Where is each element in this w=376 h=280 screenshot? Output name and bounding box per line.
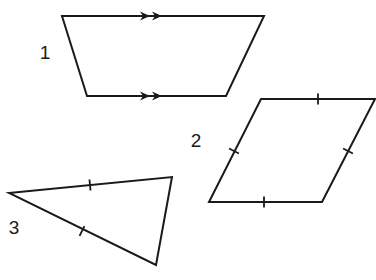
- shape-3-triangle: [9, 177, 172, 265]
- shape-2-rhombus: [209, 94, 375, 208]
- diagram-canvas: [0, 0, 376, 280]
- shape-1-trapezoid: [62, 12, 264, 101]
- equal-side-tick-marks: [229, 94, 353, 208]
- trapezoid-outline: [62, 16, 264, 96]
- parallel-arrow-marks: [140, 12, 162, 101]
- shape-1-label: 1: [40, 43, 51, 62]
- shape-2-label: 2: [191, 131, 202, 150]
- tick-mark-icon: [89, 180, 90, 191]
- shape-3-label: 3: [9, 218, 20, 237]
